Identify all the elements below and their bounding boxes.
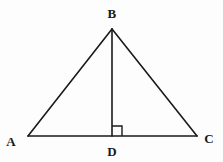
vertex-label-a: A bbox=[6, 135, 16, 148]
triangle-diagram-canvas bbox=[0, 0, 223, 162]
right-angle-marker-icon bbox=[112, 126, 122, 136]
geometry-figure: A B C D bbox=[0, 0, 223, 162]
vertex-label-d: D bbox=[107, 145, 117, 158]
segment-BC bbox=[112, 29, 197, 136]
vertex-label-b: B bbox=[108, 7, 117, 20]
vertex-label-c: C bbox=[204, 132, 214, 145]
segment-AB bbox=[28, 29, 112, 136]
